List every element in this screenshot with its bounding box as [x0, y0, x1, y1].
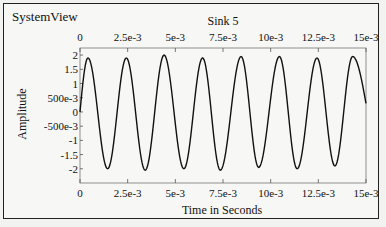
y-axis-label: Amplitude: [15, 88, 29, 139]
y-tick-label: 2: [73, 49, 79, 61]
x-tick-label: 7.5e-3: [209, 187, 237, 199]
x-axis-label: Time in Seconds: [182, 203, 263, 217]
signal-line: [80, 55, 366, 170]
x-tick-label: 0: [77, 187, 83, 199]
x-tick-label: 5e-3: [166, 187, 186, 199]
x-tick-label: 10e-3: [258, 187, 284, 199]
y-tick-label: 1.5: [64, 63, 78, 75]
y-tick-label: -500e-3: [44, 120, 79, 132]
x-tick-label-top: 7.5e-3: [209, 31, 237, 43]
y-tick-label: -1.5: [61, 149, 79, 161]
y-tick-label: 1: [73, 78, 79, 90]
plot-area: 002.5e-32.5e-35e-35e-37.5e-37.5e-310e-31…: [0, 0, 386, 227]
y-tick-label: -1: [69, 134, 78, 146]
x-tick-label-top: 15e-3: [353, 31, 379, 43]
x-tick-label: 2.5e-3: [114, 187, 142, 199]
x-tick-label: 15e-3: [353, 187, 379, 199]
x-tick-label-top: 2.5e-3: [114, 31, 142, 43]
y-tick-label: 0: [73, 106, 79, 118]
x-tick-label-top: 12.5e-3: [302, 31, 336, 43]
y-tick-label: 500e-3: [47, 92, 78, 104]
x-tick-label-top: 10e-3: [258, 31, 284, 43]
x-tick-label: 12.5e-3: [302, 187, 336, 199]
x-tick-label-top: 0: [77, 31, 83, 43]
y-tick-label: -2: [69, 163, 78, 175]
x-tick-label-top: 5e-3: [166, 31, 186, 43]
